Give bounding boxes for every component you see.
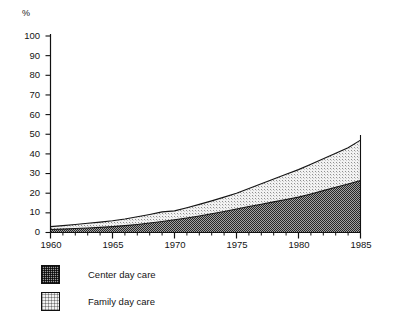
legend-item-center-day-care: Center day care — [41, 262, 301, 286]
legend-label-family-day-care: Family day care — [88, 296, 155, 307]
chart-legend: Center day care Family day care — [41, 262, 301, 316]
dark-crosshatch-swatch — [41, 265, 60, 284]
series-areas — [51, 140, 361, 232]
legend-label-center-day-care: Center day care — [88, 269, 156, 280]
light-stipple-swatch — [41, 292, 60, 311]
stacked-area-chart-figure: % 100 90 80 70 60 50 40 30 20 10 0 1960 … — [0, 0, 399, 332]
legend-item-family-day-care: Family day care — [41, 289, 301, 313]
